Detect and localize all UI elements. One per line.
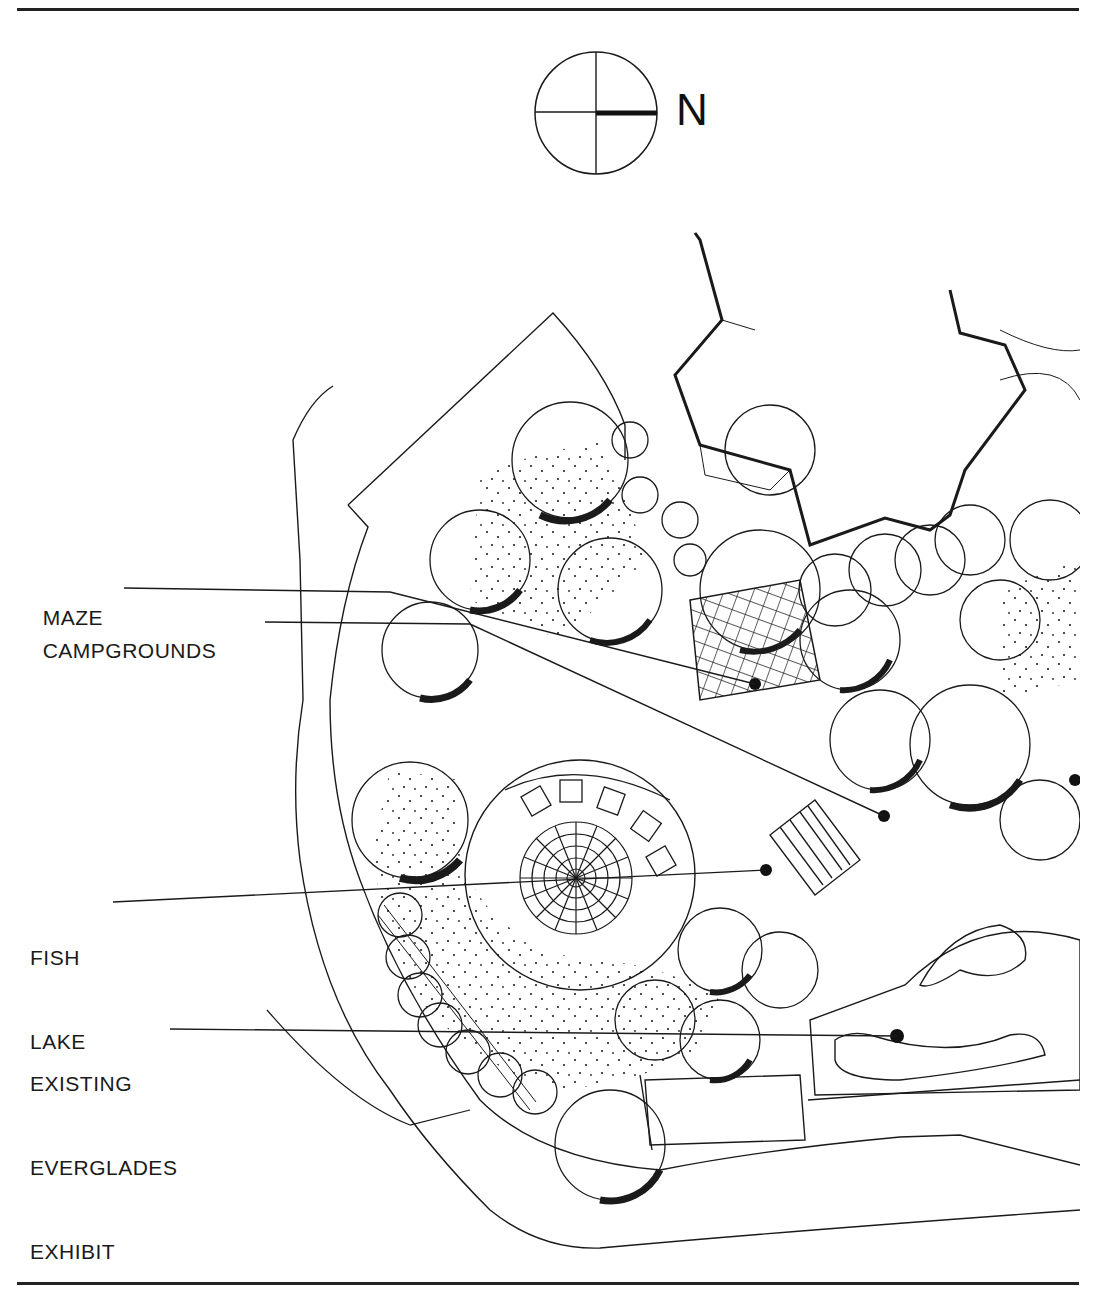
north-arrow-icon (535, 52, 657, 174)
callout-everglades-exhibit: EXISTING EVERGLADES EXHIBIT (30, 1014, 177, 1294)
tree-canopies (352, 402, 1090, 1201)
callout-campgrounds: CAMPGROUNDS (30, 609, 216, 665)
everglades-exhibit (640, 925, 1080, 1150)
callout-fish-lake-line1: FISH (30, 944, 86, 972)
callout-exhibit-line3: EXHIBIT (30, 1238, 177, 1266)
callout-exhibit-line1: EXISTING (30, 1070, 177, 1098)
north-label: N (676, 88, 708, 132)
callout-campgrounds-text: CAMPGROUNDS (43, 639, 217, 662)
building-outline (675, 233, 1080, 545)
callout-exhibit-line2: EVERGLADES (30, 1154, 177, 1182)
feature-markers (749, 678, 1081, 1043)
boardwalk (770, 800, 860, 895)
